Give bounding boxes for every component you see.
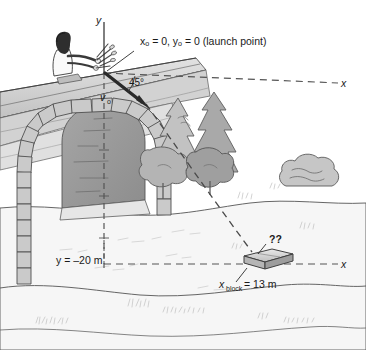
drop-height-label: y = –20 m — [56, 254, 103, 266]
x-axis-upper-label: x — [340, 77, 347, 89]
block-distance-subscript: block — [226, 285, 243, 292]
velocity-subscript: o — [107, 98, 111, 105]
projectile-diagram: y x x xₒ = 0, yₒ = 0 (launch point) 45° … — [0, 0, 366, 350]
y-axis-label: y — [95, 14, 102, 26]
x-axis-lower-label: x — [340, 258, 347, 270]
river-bank — [0, 201, 366, 350]
launch-point-label: xₒ = 0, yₒ = 0 (launch point) — [140, 35, 266, 47]
velocity-symbol: v — [100, 91, 106, 103]
launch-angle-label: 45° — [129, 77, 144, 88]
block-distance-symbol: x — [218, 278, 225, 290]
block-distance-value: = 13 m — [244, 278, 277, 290]
unknown-label: ?? — [269, 233, 282, 245]
